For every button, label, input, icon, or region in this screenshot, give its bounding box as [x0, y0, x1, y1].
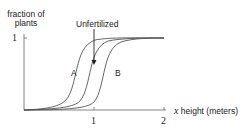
x-tick-label-1: 1 — [91, 115, 96, 126]
chart-plot-area — [0, 0, 243, 138]
annotation-unfertilized: Unfertilized — [76, 19, 119, 29]
annotation-b: B — [115, 68, 121, 78]
x-axis-label-text: height (meters) — [178, 106, 238, 116]
annotation-a: A — [71, 68, 77, 78]
x-tick-label-2: 2 — [161, 115, 166, 126]
x-axis-label: x height (meters) — [174, 105, 238, 116]
